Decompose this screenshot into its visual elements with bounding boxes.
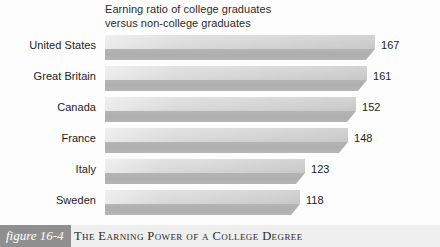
bar-row: Canada152	[0, 95, 440, 126]
bar-category-label: Great Britain	[0, 70, 96, 82]
bar-category-label: Canada	[0, 101, 96, 113]
bar-row: Great Britain161	[0, 64, 440, 95]
bar-row: Sweden118	[0, 188, 440, 219]
bar-body	[105, 128, 348, 153]
bar-body	[105, 97, 356, 122]
bar-category-label: Sweden	[0, 194, 96, 206]
figure-caption-text: The Earning Power of a College Degree	[74, 225, 303, 247]
bar-value-label: 167	[381, 39, 400, 51]
bar-category-label: France	[0, 132, 96, 144]
figure-container: Earning ratio of college graduates versu…	[0, 0, 440, 247]
bar-category-label: United States	[0, 39, 96, 51]
bar	[105, 128, 348, 153]
bar-body	[105, 66, 367, 91]
bar	[105, 35, 375, 60]
bar	[105, 190, 300, 215]
bar-row: Italy123	[0, 157, 440, 188]
bar-body	[105, 190, 300, 215]
chart-plot-area: United States167Great Britain161Canada15…	[0, 33, 440, 219]
bar-value-label: 161	[373, 70, 392, 82]
figure-number-badge: figure 16-4	[0, 225, 71, 247]
bar	[105, 97, 356, 122]
bar-row: France148	[0, 126, 440, 157]
bar-body	[105, 35, 375, 60]
chart-title: Earning ratio of college graduates versu…	[105, 3, 405, 30]
bar-category-label: Italy	[0, 163, 96, 175]
bar-value-label: 148	[354, 132, 373, 144]
bar-value-label: 123	[311, 163, 330, 175]
bar-row: United States167	[0, 33, 440, 64]
figure-caption-band: figure 16-4 The Earning Power of a Colle…	[0, 225, 440, 247]
bar-value-label: 118	[306, 194, 324, 206]
bar-body	[105, 159, 305, 184]
bar-value-label: 152	[362, 101, 381, 113]
bar	[105, 66, 367, 91]
bar	[105, 159, 305, 184]
